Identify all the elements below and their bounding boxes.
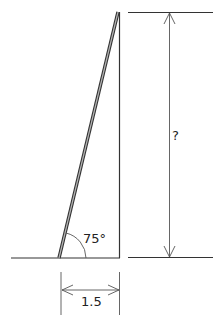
ladder <box>59 12 118 258</box>
ladder-diagram: 75° ? 1.5 <box>0 0 221 328</box>
base-label: 1.5 <box>81 294 102 309</box>
angle-label: 75° <box>83 231 106 246</box>
height-label: ? <box>172 128 179 143</box>
